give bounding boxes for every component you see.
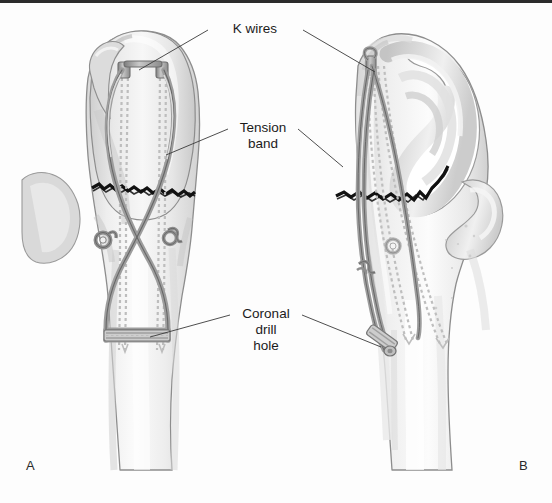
top-border-rule: [0, 0, 552, 3]
panel-a-letter: A: [26, 458, 35, 473]
panel-b-lateral-view: B: [336, 34, 528, 473]
label-coronal-drill-hole-line3: hole: [253, 338, 279, 353]
panel-b-ulna-body: [355, 34, 502, 470]
panel-a-coronal-drill-hole: [104, 330, 170, 341]
label-tension-band-line1: Tension: [240, 120, 287, 135]
panel-a-radial-head: [22, 173, 80, 264]
figure-container: A: [0, 0, 552, 503]
label-coronal-drill-hole-line1: Coronal: [242, 306, 289, 321]
olecranon-tension-band-illustration: A: [0, 0, 552, 503]
annotation-coronal-drill-hole: Coronal drill hole: [150, 306, 381, 353]
label-coronal-drill-hole-line2: drill: [255, 322, 276, 337]
leader-tension-band-right: [298, 129, 343, 167]
label-tension-band-line2: band: [248, 136, 278, 151]
label-k-wires: K wires: [233, 21, 278, 36]
panel-b-letter: B: [519, 458, 528, 473]
panel-a-posterior-view: A: [22, 31, 200, 473]
